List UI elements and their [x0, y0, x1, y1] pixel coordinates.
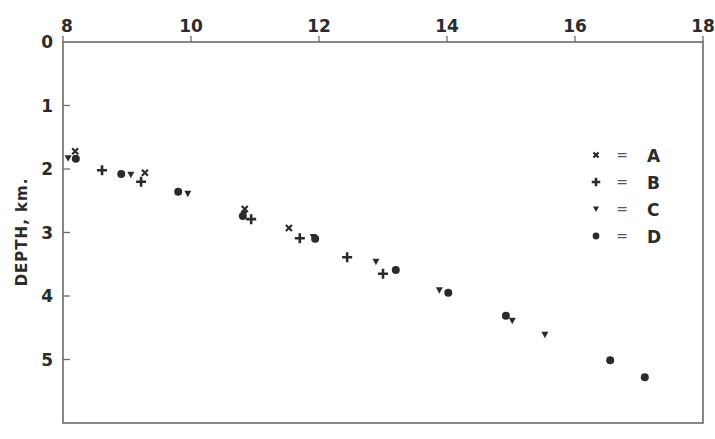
legend-equals: =: [616, 174, 628, 190]
triangle-down-marker-icon: [184, 191, 191, 198]
y-axis-title: DEPTH, km.: [13, 178, 31, 287]
legend: =A=B=C=D: [592, 146, 661, 247]
circle-marker-icon: [641, 373, 649, 381]
x-tick-label: 10: [179, 16, 203, 36]
+-marker-icon: [246, 214, 256, 224]
legend-item-A: =A: [593, 146, 661, 166]
triangle-down-marker-icon: [541, 332, 548, 339]
circle-marker-icon: [593, 233, 600, 240]
legend-label: A: [647, 146, 661, 166]
circle-marker-icon: [239, 212, 247, 220]
y-tick-label: 2: [41, 159, 53, 179]
y-tick-label: 1: [41, 96, 53, 116]
+-marker-icon: [592, 178, 601, 187]
x-tick-label: 18: [691, 16, 715, 36]
series-A: [72, 148, 292, 231]
+-marker-icon: [97, 165, 107, 175]
plot-border: [63, 42, 703, 423]
triangle-down-marker-icon: [372, 259, 379, 266]
legend-item-D: =D: [593, 227, 662, 247]
legend-label: D: [647, 227, 661, 247]
+-marker-icon: [378, 269, 388, 279]
triangle-down-marker-icon: [509, 318, 516, 325]
series-D: [72, 155, 649, 381]
depth-scatter-chart: 81012141618 012345 DEPTH, km. =A=B=C=D: [0, 0, 715, 439]
x-marker-icon: [142, 170, 148, 176]
triangle-down-marker-icon: [65, 155, 72, 162]
legend-item-C: =C: [593, 200, 659, 220]
x-tick-label: 8: [61, 16, 73, 36]
legend-equals: =: [616, 147, 628, 163]
legend-item-B: =B: [592, 173, 660, 193]
y-tick-label: 5: [41, 350, 53, 370]
plot-frame: [63, 42, 703, 423]
y-tick-label: 3: [41, 223, 53, 243]
legend-equals: =: [616, 201, 628, 217]
+-marker-icon: [295, 233, 305, 243]
circle-marker-icon: [392, 266, 400, 274]
+-marker-icon: [136, 177, 146, 187]
y-tick-label: 4: [41, 286, 53, 306]
circle-marker-icon: [502, 312, 510, 320]
x-marker-icon: [593, 152, 598, 157]
x-tick-label: 14: [435, 16, 459, 36]
x-axis: 81012141618: [61, 16, 715, 42]
triangle-down-marker-icon: [593, 206, 599, 212]
legend-equals: =: [616, 228, 628, 244]
y-tick-label: 0: [41, 32, 53, 52]
triangle-down-marker-icon: [436, 287, 443, 294]
circle-marker-icon: [606, 356, 614, 364]
x-tick-label: 12: [307, 16, 331, 36]
y-axis: 012345: [41, 32, 70, 370]
circle-marker-icon: [117, 170, 125, 178]
x-marker-icon: [72, 148, 78, 154]
+-marker-icon: [342, 252, 352, 262]
circle-marker-icon: [311, 235, 319, 243]
circle-marker-icon: [174, 188, 182, 196]
x-marker-icon: [286, 225, 292, 231]
legend-label: B: [647, 173, 660, 193]
legend-label: C: [647, 200, 659, 220]
triangle-down-marker-icon: [127, 172, 134, 179]
x-tick-label: 16: [563, 16, 587, 36]
series-B: [97, 165, 388, 279]
data-points: [65, 148, 649, 381]
circle-marker-icon: [444, 289, 452, 297]
circle-marker-icon: [72, 155, 80, 163]
